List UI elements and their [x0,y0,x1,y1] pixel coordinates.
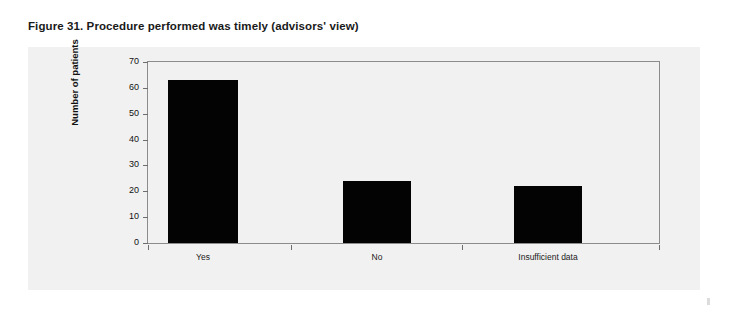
y-axis-tick-label: 20 [129,185,139,195]
figure-page: Figure 31. Procedure performed was timel… [0,0,734,314]
y-axis-title: Number of patients [69,13,80,153]
chart-card: Number of patients 010203040506070 YesNo… [28,47,700,290]
y-axis-tick-mark [143,217,148,218]
y-axis-tick-mark [143,140,148,141]
y-axis-tick-label: 10 [129,211,139,221]
plot-area: 010203040506070 YesNoInsufficient data [147,61,660,244]
x-axis-tick-mark [148,245,149,250]
x-axis-category-label: No [372,252,383,262]
print-artifact [707,298,710,305]
x-axis-tick-mark [291,245,292,250]
y-axis-tick-mark [143,88,148,89]
y-axis-tick-mark [143,62,148,63]
y-axis-tick-label: 0 [134,237,139,247]
bar [343,181,411,243]
bar [168,80,238,243]
y-axis-tick-mark [143,165,148,166]
x-axis-tick-mark [462,245,463,250]
y-axis-tick-mark [143,114,148,115]
x-axis: YesNoInsufficient data [148,245,659,269]
x-axis-category-label: Insufficient data [518,252,577,262]
y-axis-tick-label: 50 [129,108,139,118]
x-axis-tick-mark [659,245,660,250]
bar [514,186,582,243]
y-axis-tick-label: 30 [129,159,139,169]
y-axis-tick-label: 40 [129,134,139,144]
y-axis-tick-mark [143,243,148,244]
y-axis-tick-mark [143,191,148,192]
y-axis-tick-label: 70 [129,56,139,66]
y-axis-tick-label: 60 [129,82,139,92]
x-axis-category-label: Yes [196,252,210,262]
